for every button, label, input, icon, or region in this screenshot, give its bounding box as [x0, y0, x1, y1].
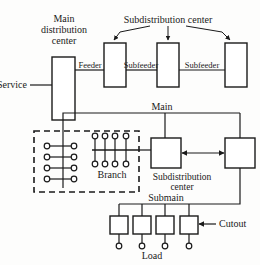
- subdistribution-center-box-left: [151, 138, 181, 168]
- submain-label: Submain: [148, 192, 184, 203]
- subdistribution-box-2: [157, 43, 179, 87]
- subdistribution-center-box-right: [225, 138, 255, 168]
- branch-label: Branch: [98, 169, 127, 180]
- distribution-system-diagram: Subdistribution center Main distribution…: [0, 0, 260, 265]
- load-drop-lines: [119, 204, 189, 216]
- load-box-2: [133, 216, 151, 234]
- load-box-3: [156, 216, 174, 234]
- subdistribution-box-3: [225, 43, 247, 87]
- load-terminals: [116, 234, 192, 249]
- load-box-4: [180, 216, 198, 234]
- subdistribution-box-1: [104, 43, 126, 87]
- main-distribution-center-label-line3: center: [52, 35, 77, 46]
- branch-left-terminal-rows: [44, 143, 77, 182]
- cutout-label: Cutout: [219, 218, 246, 229]
- subfeeder-label-1: Subfeeder: [124, 60, 159, 70]
- diagram-canvas: Subdistribution center Main distribution…: [0, 0, 260, 265]
- main-label: Main: [151, 101, 172, 112]
- load-label: Load: [142, 250, 163, 261]
- load-box-1: [110, 216, 128, 234]
- subfeeder-label-2: Subfeeder: [185, 60, 220, 70]
- subdistribution-center-label-line1: Subdistribution: [153, 172, 212, 182]
- branch-enclosure-dashed-box: [34, 131, 139, 192]
- subdistribution-center-label-line2: center: [170, 182, 194, 192]
- main-distribution-center-label-line2: distribution: [41, 24, 87, 35]
- main-bus-line: [63, 113, 240, 120]
- main-distribution-center-label-line1: Main: [53, 13, 74, 24]
- feeder-label: Feeder: [78, 60, 101, 70]
- service-label: Service: [0, 79, 28, 90]
- subdistribution-center-top-label: Subdistribution center: [124, 14, 213, 25]
- main-distribution-center-box: [52, 57, 75, 120]
- top-callout-arrows: [114, 26, 230, 40]
